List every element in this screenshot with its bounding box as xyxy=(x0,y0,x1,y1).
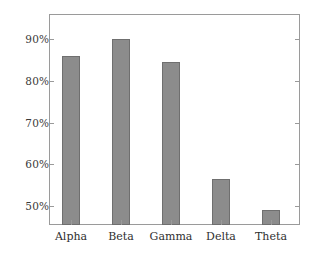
y-tick-mark-right xyxy=(295,39,300,40)
x-tick-mark xyxy=(221,220,222,225)
y-tick-mark-left xyxy=(49,39,54,40)
bar-chart: 90% 80% 70% 60% 50% Alpha Beta Gamma Del… xyxy=(0,0,314,263)
bar-gamma[interactable] xyxy=(162,62,180,225)
bar-delta[interactable] xyxy=(212,179,230,225)
bar-alpha[interactable] xyxy=(62,56,80,225)
y-tick-mark-left xyxy=(49,81,54,82)
y-tick-mark-right xyxy=(295,81,300,82)
x-tick-mark xyxy=(71,220,72,225)
x-tick-mark xyxy=(271,220,272,225)
x-axis-label-theta: Theta xyxy=(236,231,306,243)
y-tick-mark-right xyxy=(295,206,300,207)
y-tick-mark-right xyxy=(295,164,300,165)
y-axis-tick-label: 90% xyxy=(9,34,49,45)
y-axis-tick-label: 80% xyxy=(9,76,49,87)
y-tick-mark-left xyxy=(49,164,54,165)
x-tick-mark xyxy=(171,220,172,225)
y-tick-mark-right xyxy=(295,123,300,124)
y-axis-tick-label: 60% xyxy=(9,159,49,170)
y-axis-tick-label: 50% xyxy=(9,201,49,212)
x-tick-mark xyxy=(121,220,122,225)
bar-beta[interactable] xyxy=(112,39,130,225)
y-axis-tick-label: 70% xyxy=(9,118,49,129)
y-tick-mark-left xyxy=(49,123,54,124)
y-tick-mark-left xyxy=(49,206,54,207)
